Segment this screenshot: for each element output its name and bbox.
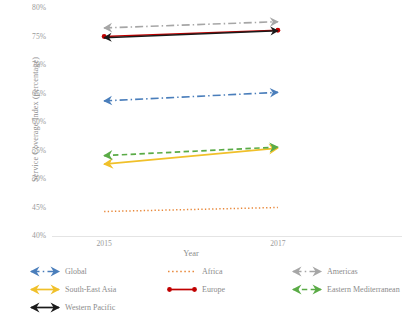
y-tick-label: 45% [32, 204, 46, 212]
legend-key-icon [28, 284, 62, 295]
legend-item-western-pacific[interactable]: Western Pacific [28, 302, 115, 313]
legend-item-label: Eastern Mediterranean [327, 285, 400, 295]
y-axis-tick-labels: 80%75%70%65%60%55%50%45%40% [0, 0, 52, 250]
legend-item-label: Europe [202, 285, 225, 295]
y-tick-label: 40% [32, 232, 46, 240]
legend-item-label: Americas [327, 267, 358, 277]
x-axis-title: Year [52, 249, 330, 258]
series-global [104, 92, 278, 101]
y-tick-label: 70% [32, 61, 46, 69]
legend-item-africa[interactable]: Africa [165, 266, 222, 277]
y-tick-label: 65% [32, 90, 46, 98]
legend-item-label: Africa [202, 267, 222, 277]
legend-item-global[interactable]: Global [28, 266, 87, 277]
legend-key-icon [28, 302, 62, 313]
series-africa [104, 208, 278, 212]
x-axis-line [52, 236, 402, 237]
service-coverage-index-chart: Service Coverage Index (percentage) 80%7… [0, 0, 412, 322]
plot-area [52, 8, 330, 236]
y-tick-label: 50% [32, 175, 46, 183]
legend-key-icon [290, 266, 324, 277]
series-americas [104, 22, 278, 28]
legend-item-europe[interactable]: Europe [165, 284, 225, 295]
chart-legend: GlobalAfricaAmericasSouth-East AsiaEurop… [0, 264, 412, 322]
series-south-east-asia [104, 148, 278, 164]
x-tick-label: 2015 [97, 239, 112, 248]
legend-key-icon [165, 284, 199, 295]
y-tick-label: 60% [32, 118, 46, 126]
series-western-pacific [104, 31, 278, 38]
y-tick-label: 55% [32, 147, 46, 155]
legend-key-icon [28, 266, 62, 277]
y-tick-label: 75% [32, 33, 46, 41]
legend-key-icon [290, 284, 324, 295]
legend-item-label: Western Pacific [65, 303, 115, 313]
legend-item-label: South-East Asia [65, 285, 116, 295]
x-tick-label: 2017 [270, 239, 285, 248]
y-tick-label: 80% [32, 4, 46, 12]
legend-item-americas[interactable]: Americas [290, 266, 358, 277]
legend-item-eastern-mediterranean[interactable]: Eastern Mediterranean [290, 284, 400, 295]
legend-item-south-east-asia[interactable]: South-East Asia [28, 284, 116, 295]
legend-key-icon [165, 266, 199, 277]
legend-item-label: Global [65, 267, 87, 277]
series-canvas [52, 8, 330, 236]
